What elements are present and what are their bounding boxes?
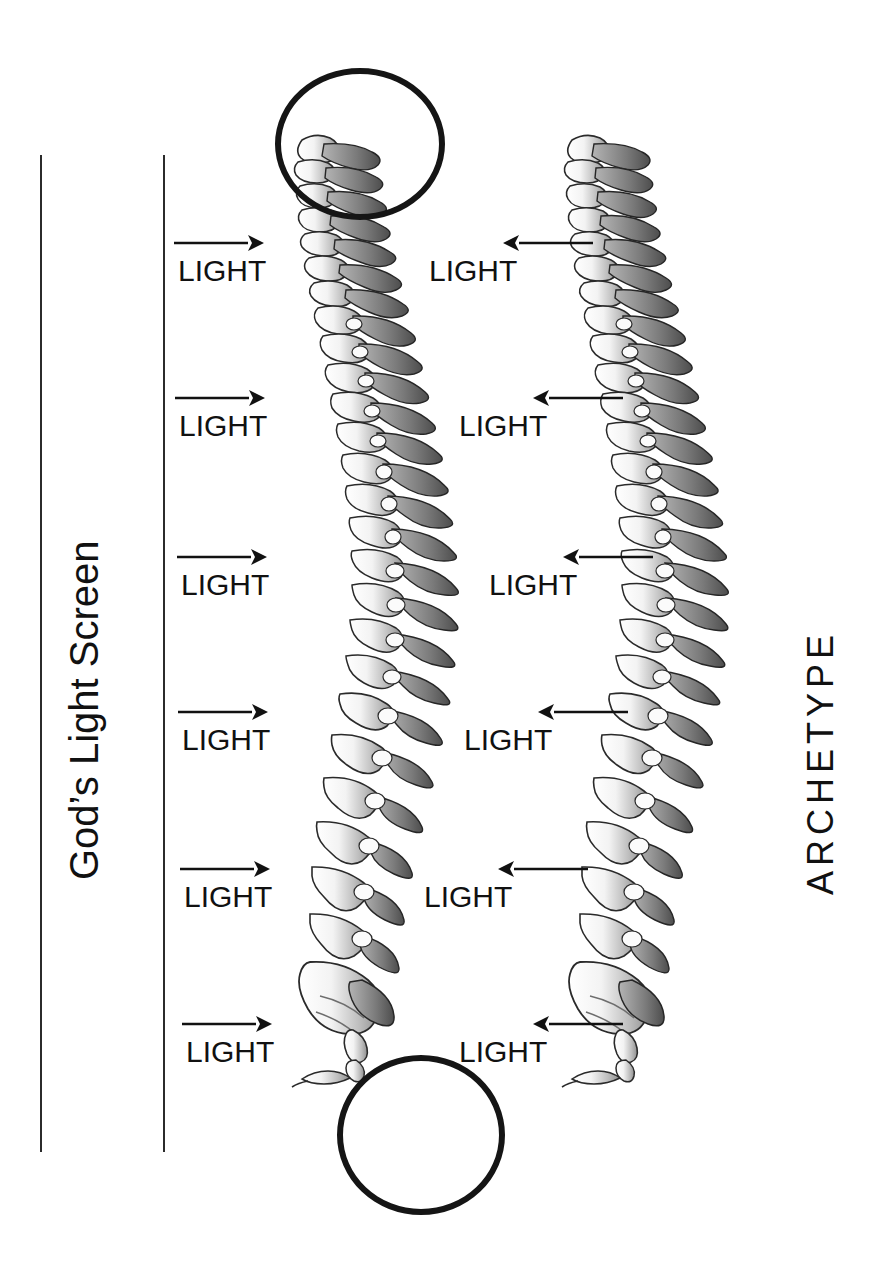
light-arrow-left-icon [455, 387, 625, 409]
cervical-highlight-ring [275, 68, 445, 220]
light-arrow-left-icon [460, 701, 630, 723]
light-label: LIGHT [420, 880, 594, 914]
light-label: LIGHT [455, 1035, 629, 1069]
light-arrow-left-icon [455, 1013, 625, 1035]
light-arrow-right-icon [180, 1013, 350, 1035]
left-light-group-2: LIGHT [173, 387, 343, 453]
light-label: LIGHT [180, 1035, 356, 1069]
left-light-group-3: LIGHT [175, 546, 345, 612]
light-label: LIGHT [175, 568, 351, 602]
right-light-group-6: LIGHT [455, 1013, 625, 1079]
light-arrow-left-icon [485, 546, 655, 568]
left-light-group-1: LIGHT [172, 232, 342, 298]
light-arrow-right-icon [175, 546, 345, 568]
figure-canvas: God’s Light Screen ARCHETYPE [0, 0, 876, 1280]
light-arrow-right-icon [172, 232, 342, 254]
right-light-group-5: LIGHT [420, 858, 590, 924]
right-light-group-4: LIGHT [460, 701, 630, 767]
light-label: LIGHT [425, 254, 599, 288]
light-arrow-right-icon [173, 387, 343, 409]
left-caption-gods-light-screen: God’s Light Screen [62, 541, 107, 880]
left-light-group-6: LIGHT [180, 1013, 350, 1079]
light-label: LIGHT [178, 880, 354, 914]
outer-vertical-rule [40, 155, 42, 1152]
right-caption-archetype: ARCHETYPE [800, 630, 842, 895]
light-arrow-left-icon [425, 232, 595, 254]
light-label: LIGHT [460, 723, 634, 757]
right-light-group-1: LIGHT [425, 232, 595, 298]
light-arrow-right-icon [176, 701, 346, 723]
right-light-group-3: LIGHT [485, 546, 655, 612]
light-arrow-right-icon [178, 858, 348, 880]
right-light-group-2: LIGHT [455, 387, 625, 453]
inner-vertical-rule [163, 155, 165, 1152]
left-light-group-4: LIGHT [176, 701, 346, 767]
light-label: LIGHT [485, 568, 659, 602]
left-light-group-5: LIGHT [178, 858, 348, 924]
coccyx-highlight-ring [337, 1055, 505, 1215]
light-label: LIGHT [173, 409, 349, 443]
light-label: LIGHT [176, 723, 352, 757]
light-arrow-left-icon [420, 858, 590, 880]
light-label: LIGHT [455, 409, 629, 443]
light-label: LIGHT [172, 254, 348, 288]
